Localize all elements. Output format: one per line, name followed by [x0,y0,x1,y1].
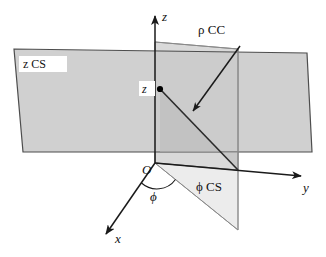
cylindrical-coordinates-diagram: z y x O ϕ z CS z ϕ CS ρ CC [0,0,326,257]
point-marker [157,86,163,92]
origin-label: O [142,162,152,177]
phi-cs-label: ϕ CS [196,179,222,194]
rho-cc-label: ρ CC [198,22,225,37]
x-axis-label: x [114,231,121,246]
phi-angle-label: ϕ [150,189,157,204]
z-axis-label: z [161,9,167,24]
phi-angle-arc [142,180,176,189]
point-z-label: z [141,82,147,96]
z-cs-label: z CS [23,57,46,71]
diagram-canvas: z y x O ϕ z CS z ϕ CS ρ CC [0,0,326,257]
y-axis-label: y [301,180,309,195]
